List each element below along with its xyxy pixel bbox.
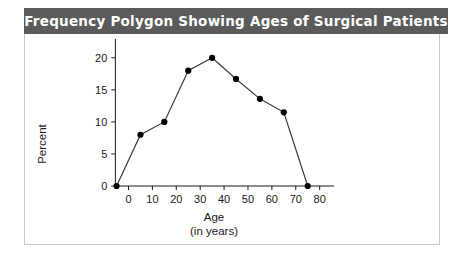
x-tick-label: 60 (266, 193, 278, 205)
data-point-markers (113, 55, 310, 189)
x-axis-subtitle: (in years) (190, 225, 238, 237)
x-tick-label: 70 (290, 193, 302, 205)
x-tick-labels: 01020304050607080 (125, 193, 325, 205)
y-axis (111, 39, 115, 186)
data-point (281, 109, 287, 115)
x-axis-title: Age (204, 211, 224, 223)
chart-plot-area: 05101520 01020304050607080 Percent Age (… (24, 34, 440, 245)
y-tick-label: 10 (95, 116, 107, 128)
data-point (257, 96, 263, 102)
x-tick-label: 20 (170, 193, 182, 205)
data-point (137, 132, 143, 138)
x-axis (115, 186, 334, 190)
data-point (185, 68, 191, 74)
data-point (113, 183, 119, 189)
data-point (209, 55, 215, 61)
data-point (161, 119, 167, 125)
page-title: Frequency Polygon Showing Ages of Surgic… (24, 13, 448, 29)
x-tick-label: 50 (242, 193, 254, 205)
y-tick-label: 5 (101, 148, 107, 160)
y-tick-label: 15 (95, 84, 107, 96)
x-tick-label: 80 (314, 193, 326, 205)
y-tick-label: 0 (101, 180, 107, 192)
y-tick-label: 20 (95, 52, 107, 64)
frequency-polygon-chart: 05101520 01020304050607080 Percent Age (… (24, 34, 440, 245)
x-tick-label: 0 (125, 193, 131, 205)
data-point (305, 183, 311, 189)
y-axis-title: Percent (36, 123, 48, 163)
y-tick-labels: 05101520 (95, 52, 107, 192)
data-series-line (117, 58, 308, 186)
x-tick-label: 30 (194, 193, 206, 205)
data-point (233, 76, 239, 82)
x-tick-label: 40 (218, 193, 230, 205)
chart-title-banner: Frequency Polygon Showing Ages of Surgic… (24, 8, 448, 34)
x-tick-label: 10 (146, 193, 158, 205)
